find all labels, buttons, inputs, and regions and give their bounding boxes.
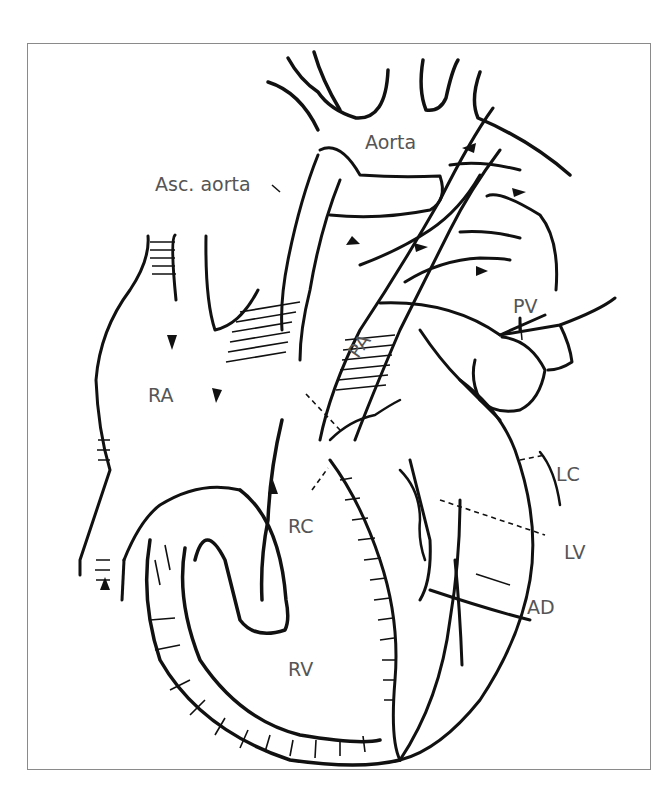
leader-lines bbox=[306, 394, 545, 535]
right-ventricle bbox=[147, 420, 400, 765]
heart-illustration bbox=[0, 0, 669, 794]
label-asc-aorta: Asc. aorta bbox=[155, 175, 251, 194]
label-rv: RV bbox=[288, 660, 313, 679]
label-aorta: Aorta bbox=[365, 133, 416, 152]
label-lc: LC bbox=[556, 465, 580, 484]
hatching bbox=[95, 242, 395, 758]
right-atrium bbox=[80, 235, 258, 600]
left-atrium bbox=[473, 315, 572, 411]
label-pv: PV bbox=[513, 297, 537, 316]
pulmonary-artery bbox=[320, 108, 615, 440]
left-ventricle bbox=[330, 380, 533, 760]
label-lv: LV bbox=[564, 543, 586, 562]
label-rc: RC bbox=[288, 517, 314, 536]
label-ad: AD bbox=[527, 598, 555, 617]
label-ra: RA bbox=[148, 386, 173, 405]
aortic-branches bbox=[268, 52, 570, 175]
